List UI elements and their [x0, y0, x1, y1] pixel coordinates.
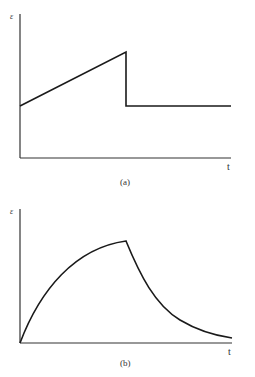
caption-b: (b) [120, 358, 131, 368]
caption-a: (a) [120, 177, 130, 187]
chart-a [20, 14, 231, 158]
strain-curve-a [20, 52, 231, 106]
chart-b [20, 209, 232, 343]
y-axis-label-b: ε [10, 207, 13, 217]
strain-curve-b [20, 241, 232, 343]
y-axis-label-a: ε [10, 12, 13, 22]
x-axis-label-a: t [227, 162, 230, 172]
x-axis-label-b: t [228, 347, 231, 357]
figure-canvas [0, 0, 255, 377]
